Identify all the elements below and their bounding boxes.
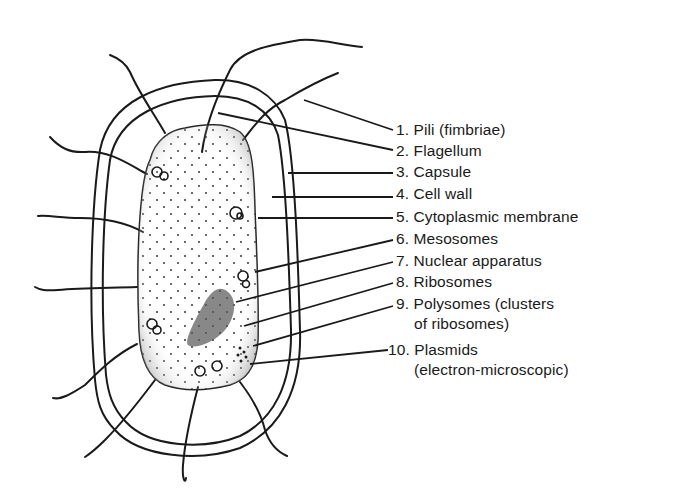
label-cytoplasmic-membrane: 5. Cytoplasmic membrane <box>396 207 578 227</box>
pilus-line <box>183 387 198 481</box>
pilus-line <box>110 55 165 133</box>
label-polysomes: 9. Polysomes (clusters of ribosomes) <box>396 294 554 334</box>
label-nuclear-apparatus: 7. Nuclear apparatus <box>396 251 542 271</box>
label-cell-wall: 4. Cell wall <box>396 184 472 204</box>
bacterial-cell-diagram <box>0 0 675 499</box>
label-flagellum: 2. Flagellum <box>396 141 482 161</box>
pilus-line <box>38 216 143 232</box>
label-capsule: 3. Capsule <box>396 162 471 182</box>
label-ribosomes: 8. Ribosomes <box>396 272 492 292</box>
label-mesosomes: 6. Mesosomes <box>396 229 498 249</box>
label-pili: 1. Pili (fimbriae) <box>396 120 506 140</box>
pilus-line <box>35 287 137 290</box>
label-plasmids: 10. Plasmids (electron-microscopic) <box>388 340 569 380</box>
